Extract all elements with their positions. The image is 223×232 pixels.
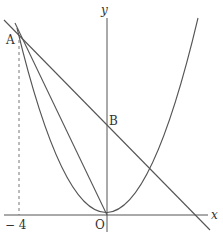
coordinate-diagram: A B O x y − 4 [0, 0, 223, 232]
origin-label: O [95, 218, 105, 232]
point-a-label: A [5, 33, 15, 47]
y-axis-label: y [100, 3, 108, 17]
tick-label-neg4: − 4 [5, 218, 27, 232]
segment-ao [15, 23, 107, 215]
x-axis-label: x [211, 208, 218, 222]
point-b-label: B [109, 114, 118, 128]
